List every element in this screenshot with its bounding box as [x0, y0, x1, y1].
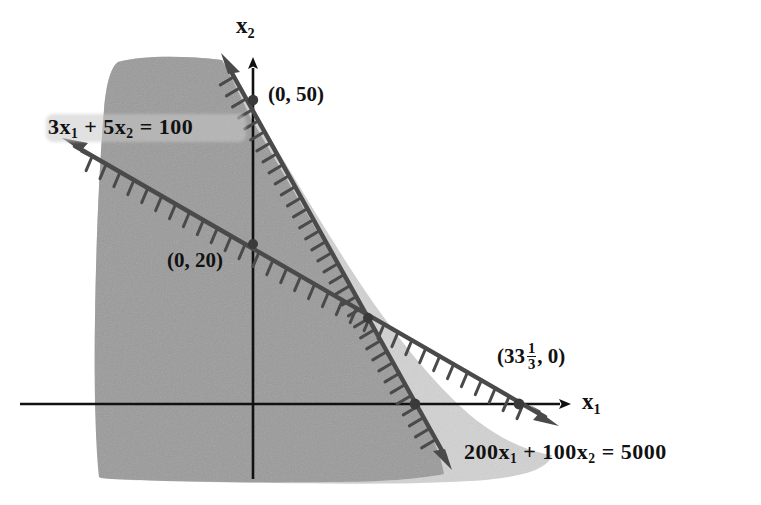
- c1-coef-x2: 5x: [103, 114, 126, 139]
- constraint-line-1-arrow-right: [530, 405, 559, 426]
- c2-coef-x1-sub: 1: [510, 451, 517, 466]
- vertex-33third-0-marker: [514, 399, 525, 410]
- c2-plus: +: [523, 439, 536, 464]
- y-axis-label-subscript: 2: [248, 25, 255, 41]
- c1-rhs: 100: [159, 114, 194, 139]
- mixed-fraction: 13: [527, 341, 536, 372]
- c2-coef-x1: 200x: [464, 439, 510, 464]
- fraction-numerator: 1: [527, 341, 536, 357]
- c2-coef-x2: 100x: [542, 439, 588, 464]
- y-axis-label-base: x: [236, 13, 248, 38]
- vertex-0-50-marker: [248, 95, 258, 105]
- constraint-2-equation-label: 200x1 + 100x2 = 5000: [464, 441, 667, 466]
- point-label-0-20: (0, 20): [167, 250, 223, 271]
- c1-plus: +: [84, 114, 97, 139]
- linear-programming-figure: x2 x1 3x1 + 5x2 = 100 200x1 + 100x2 = 50…: [0, 0, 761, 505]
- x-axis-label-base: x: [582, 389, 594, 414]
- c1-coef-x1-sub: 1: [71, 126, 78, 141]
- c1-equals: =: [140, 114, 153, 139]
- c2-coef-x2-sub: 2: [588, 451, 595, 466]
- x-axis-label: x1: [582, 390, 601, 416]
- fraction-denominator: 3: [527, 357, 536, 372]
- vertex-intersection-marker: [363, 313, 373, 323]
- vertex-25-0-marker: [410, 399, 421, 410]
- c2-rhs: 5000: [621, 439, 667, 464]
- c1-coef-x2-sub: 2: [126, 126, 133, 141]
- constraint-1-equation-label: 3x1 + 5x2 = 100: [48, 116, 193, 141]
- feasible-region-plot: [0, 0, 761, 505]
- point-label-0-50: (0, 50): [268, 84, 324, 105]
- frac-open-paren: (: [497, 344, 504, 368]
- frac-whole: 33: [504, 344, 525, 368]
- vertex-0-20-marker: [248, 239, 258, 249]
- frac-rest: , 0): [537, 344, 565, 368]
- y-axis-label: x2: [236, 14, 255, 40]
- c1-coef-x1: 3x: [48, 114, 71, 139]
- x-axis-label-subscript: 1: [594, 401, 601, 417]
- c2-equals: =: [602, 439, 615, 464]
- point-label-33-and-one-third-0: (3313, 0): [497, 341, 565, 372]
